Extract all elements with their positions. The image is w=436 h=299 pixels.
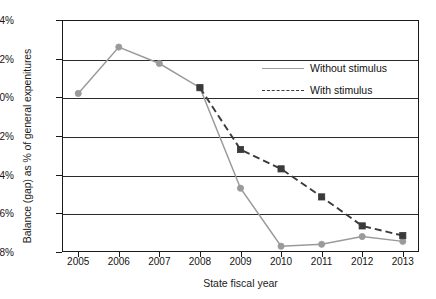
- x-tick-label: 2012: [340, 256, 384, 267]
- chart-legend: Without stimulus With stimulus: [262, 60, 412, 98]
- x-tick-label: 2013: [381, 256, 425, 267]
- y-tick-label: -2%: [0, 131, 14, 142]
- gridline: [63, 214, 418, 215]
- x-tick-mark: [362, 252, 363, 257]
- gridline: [63, 176, 418, 177]
- legend-item-without-stimulus: Without stimulus: [262, 60, 387, 76]
- x-tick-label: 2006: [97, 256, 141, 267]
- legend-label-with-stimulus: With stimulus: [310, 84, 372, 96]
- x-tick-mark: [119, 252, 120, 257]
- x-tick-label: 2009: [219, 256, 263, 267]
- x-tick-mark: [241, 252, 242, 257]
- x-tick-mark: [78, 252, 79, 257]
- gridline: [63, 98, 418, 99]
- y-tick-label: 4%: [0, 15, 14, 26]
- legend-item-with-stimulus: With stimulus: [262, 82, 372, 98]
- x-tick-mark: [200, 252, 201, 257]
- x-tick-label: 2010: [259, 256, 303, 267]
- x-tick-mark: [322, 252, 323, 257]
- y-tick-label: -6%: [0, 208, 14, 219]
- y-axis-title: Balance (gap) as % of general expeniture…: [18, 20, 36, 272]
- y-tick-label: -8%: [0, 247, 14, 258]
- legend-swatch-solid-circle: [262, 62, 304, 74]
- y-tick-label: -4%: [0, 169, 14, 180]
- legend-label-without-stimulus: Without stimulus: [310, 62, 387, 74]
- line-chart: Balance (gap) as % of general expeniture…: [0, 0, 436, 299]
- x-tick-label: 2011: [300, 256, 344, 267]
- plot-area: [62, 20, 419, 252]
- x-tick-mark: [159, 252, 160, 257]
- x-tick-label: 2008: [178, 256, 222, 267]
- x-tick-label: 2005: [56, 256, 100, 267]
- y-tick-label: 2%: [0, 53, 14, 64]
- x-tick-mark: [281, 252, 282, 257]
- gridline: [63, 137, 418, 138]
- x-tick-label: 2007: [137, 256, 181, 267]
- y-tick-label: 0%: [0, 92, 14, 103]
- x-tick-mark: [403, 252, 404, 257]
- legend-swatch-dashed-square: [262, 84, 304, 96]
- x-axis-title: State fiscal year: [62, 277, 419, 289]
- y-tick-mark: [56, 252, 62, 253]
